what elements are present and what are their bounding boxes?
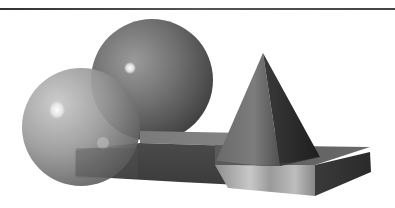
cone	[216, 53, 320, 166]
rendered-scene	[0, 0, 395, 208]
front-sphere	[22, 68, 140, 186]
